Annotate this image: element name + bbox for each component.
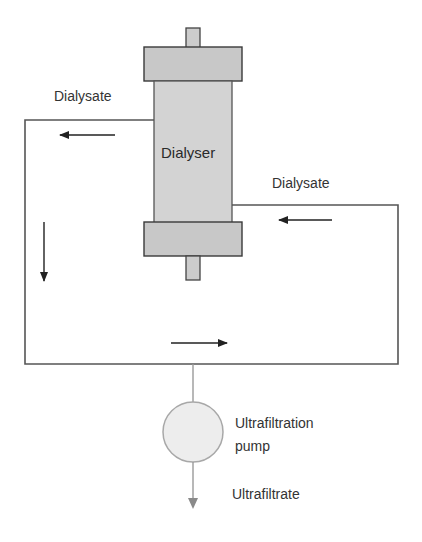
dialysis-diagram: Dialysate Dialyser Dialysate Ultrafiltra… <box>0 0 422 542</box>
dialyser-bottom-cap <box>144 222 242 256</box>
ultrafiltrate-arrowhead-icon <box>188 498 198 509</box>
pump-label-line1: Ultrafiltration <box>235 415 314 431</box>
dialysate-outlet-label: Dialysate <box>54 88 112 104</box>
pump-label-line2: pump <box>235 438 270 454</box>
dialyser-top-cap <box>144 47 242 81</box>
ultrafiltration-pump-icon <box>163 402 223 462</box>
dialyser-label: Dialyser <box>161 145 215 161</box>
dialyser-bottom-stub <box>186 256 200 280</box>
dialysate-inlet-label: Dialysate <box>272 175 330 191</box>
ultrafiltrate-label: Ultrafiltrate <box>232 486 300 502</box>
diagram-svg <box>0 0 422 542</box>
dialyser-top-stub <box>186 28 200 48</box>
